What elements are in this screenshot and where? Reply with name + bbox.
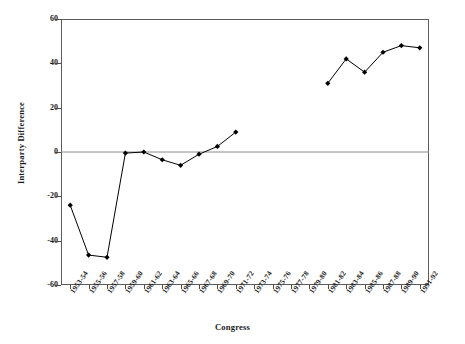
x-tick-mark <box>89 285 90 289</box>
x-tick-mark <box>217 285 218 289</box>
x-tick-mark <box>346 285 347 289</box>
x-tick-label: 1959-60 <box>123 269 145 295</box>
x-tick-mark <box>199 285 200 289</box>
x-tick-label: 1971-72 <box>234 269 256 295</box>
y-tick-mark <box>55 285 61 286</box>
x-tick-label: 1981-82 <box>326 269 348 295</box>
x-tick-mark <box>107 285 108 289</box>
x-tick-mark <box>383 285 384 289</box>
x-tick-label: 1969-70 <box>215 269 237 295</box>
x-tick-mark <box>236 285 237 289</box>
x-tick-label: 1989-90 <box>399 269 421 295</box>
x-tick-label: 1979-80 <box>307 269 329 295</box>
x-tick-label: 1961-62 <box>142 269 164 295</box>
y-tick-mark <box>55 241 61 242</box>
y-tick-mark <box>55 196 61 197</box>
y-tick-mark <box>55 63 61 64</box>
y-tick-mark <box>55 152 61 153</box>
x-axis-ticks: 1953-541955-561957-581959-601961-621963-… <box>0 0 465 344</box>
x-tick-label: 1985-86 <box>363 269 385 295</box>
x-tick-mark <box>125 285 126 289</box>
y-tick-mark <box>55 19 61 20</box>
x-tick-label: 1965-66 <box>179 269 201 295</box>
x-tick-mark <box>401 285 402 289</box>
x-axis-title: Congress <box>0 322 465 332</box>
y-tick-mark <box>55 108 61 109</box>
x-tick-mark <box>181 285 182 289</box>
x-tick-label: 1975-76 <box>271 269 293 295</box>
x-tick-label: 1955-56 <box>87 269 109 295</box>
x-tick-label: 1991-92 <box>418 269 440 295</box>
x-tick-mark <box>291 285 292 289</box>
x-tick-mark <box>309 285 310 289</box>
x-tick-label: 1953-54 <box>68 269 90 295</box>
x-tick-mark <box>328 285 329 289</box>
x-tick-mark <box>162 285 163 289</box>
x-tick-mark <box>365 285 366 289</box>
x-tick-mark <box>144 285 145 289</box>
x-tick-mark <box>420 285 421 289</box>
x-tick-mark <box>70 285 71 289</box>
x-tick-mark <box>273 285 274 289</box>
chart-figure: Interparty Difference 6040200-20-40-60 1… <box>0 0 465 344</box>
x-tick-mark <box>254 285 255 289</box>
